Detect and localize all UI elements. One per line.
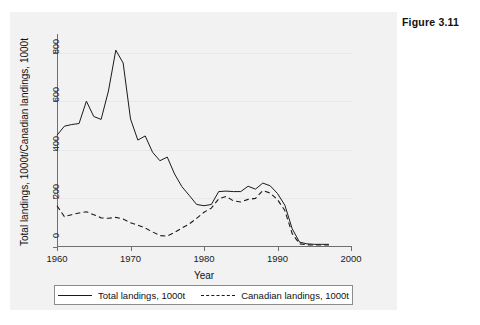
x-tick-mark [131, 247, 132, 251]
x-tick-mark [351, 247, 352, 251]
x-tick-mark [57, 247, 58, 251]
y-axis-title: Total landings, 1000t/Canadian landings,… [18, 38, 32, 247]
plot-area: 0200400600800 19601970198019902000 [57, 38, 351, 247]
x-tick-mark [278, 247, 279, 251]
x-tick-label: 1980 [193, 253, 214, 264]
x-axis-title: Year [57, 270, 351, 281]
x-tick-label: 1990 [267, 253, 288, 264]
legend-label-total-landings: Total landings, 1000t [98, 290, 185, 301]
x-tick-label: 1970 [120, 253, 141, 264]
legend-key-dashed-icon [201, 295, 235, 296]
series-layer [57, 34, 352, 247]
legend-key-solid-icon [58, 295, 92, 296]
x-tick-label: 2000 [340, 253, 361, 264]
x-tick-label: 1960 [46, 253, 67, 264]
x-tick-mark [204, 247, 205, 251]
series-line-canadian-landings [57, 191, 329, 245]
legend-item-canadian-landings: Canadian landings, 1000t [201, 290, 349, 301]
legend-item-total-landings: Total landings, 1000t [58, 290, 185, 301]
chart-legend: Total landings, 1000t Canadian landings,… [54, 285, 353, 305]
line-chart: Total landings, 1000t/Canadian landings,… [10, 12, 397, 310]
page-scan-artifact [0, 0, 480, 10]
figure-label: Figure 3.11 [402, 16, 459, 28]
legend-label-canadian-landings: Canadian landings, 1000t [241, 290, 349, 301]
series-line-total-landings [57, 50, 329, 244]
